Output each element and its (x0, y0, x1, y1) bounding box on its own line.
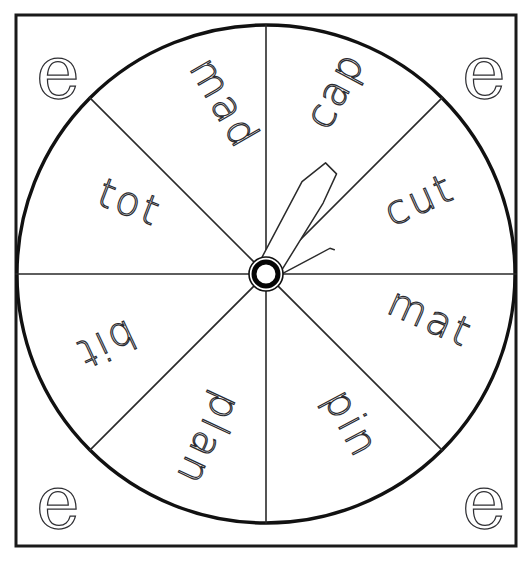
worksheet-canvas: capcutmatpinplanbittotmad eeee (0, 0, 525, 561)
hub-inner-hole (258, 266, 274, 282)
corner-letter-top-right: e (462, 29, 506, 115)
spinner-hub[interactable] (249, 257, 283, 291)
corner-letter-bottom-right: e (462, 459, 506, 545)
spinner-worksheet: capcutmatpinplanbittotmad eeee (0, 0, 525, 561)
corner-letter-bottom-left: e (36, 459, 80, 545)
corner-letter-top-left: e (36, 29, 80, 115)
